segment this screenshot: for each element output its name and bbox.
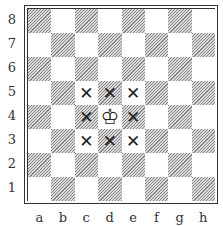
square-a5 (28, 81, 51, 105)
square-c4: ✕ (75, 105, 98, 129)
square-f3 (145, 129, 168, 153)
square-a1 (28, 177, 51, 201)
square-h7 (192, 33, 215, 57)
square-a7 (28, 33, 51, 57)
cross-mark-icon: ✕ (103, 85, 117, 102)
square-g8 (168, 9, 191, 33)
square-h2 (192, 153, 215, 177)
rank-label: 8 (6, 12, 18, 27)
square-b3 (51, 129, 74, 153)
cross-mark-icon: ✕ (79, 85, 93, 102)
square-b6 (51, 57, 74, 81)
square-d2 (98, 153, 121, 177)
file-label: c (75, 210, 98, 225)
rank-label: 4 (6, 108, 18, 123)
cross-mark-icon: ✕ (126, 133, 140, 150)
square-h6 (192, 57, 215, 81)
square-b5 (51, 81, 74, 105)
square-d7 (98, 33, 121, 57)
square-f2 (145, 153, 168, 177)
file-label: e (122, 210, 145, 225)
square-e3: ✕ (122, 129, 145, 153)
square-c2 (75, 153, 98, 177)
square-e6 (122, 57, 145, 81)
square-g5 (168, 81, 191, 105)
cross-mark-icon: ✕ (79, 133, 93, 150)
square-c5: ✕ (75, 81, 98, 105)
rank-label: 7 (6, 36, 18, 51)
square-g6 (168, 57, 191, 81)
square-c1 (75, 177, 98, 201)
square-f1 (145, 177, 168, 201)
square-b2 (51, 153, 74, 177)
square-f5 (145, 81, 168, 105)
square-f6 (145, 57, 168, 81)
square-h4 (192, 105, 215, 129)
file-label: a (28, 210, 51, 225)
square-e8 (122, 9, 145, 33)
file-label: d (98, 210, 121, 225)
cross-mark-icon: ✕ (126, 85, 140, 102)
square-g4 (168, 105, 191, 129)
chess-board: ✕✕✕✕♔✕✕✕✕ (28, 9, 215, 201)
square-f7 (145, 33, 168, 57)
file-label: h (192, 210, 215, 225)
square-d8 (98, 9, 121, 33)
square-g1 (168, 177, 191, 201)
rank-label: 2 (6, 156, 18, 171)
square-a4 (28, 105, 51, 129)
file-label: f (145, 210, 168, 225)
square-d1 (98, 177, 121, 201)
square-c3: ✕ (75, 129, 98, 153)
square-g3 (168, 129, 191, 153)
square-f4 (145, 105, 168, 129)
file-label: b (51, 210, 74, 225)
square-e2 (122, 153, 145, 177)
square-d3: ✕ (98, 129, 121, 153)
square-c8 (75, 9, 98, 33)
square-a3 (28, 129, 51, 153)
square-d5: ✕ (98, 81, 121, 105)
square-d6 (98, 57, 121, 81)
square-a2 (28, 153, 51, 177)
square-h1 (192, 177, 215, 201)
rank-label: 6 (6, 60, 18, 75)
square-h3 (192, 129, 215, 153)
white-king-icon: ♔ (100, 107, 119, 128)
square-f8 (145, 9, 168, 33)
square-e1 (122, 177, 145, 201)
square-h8 (192, 9, 215, 33)
square-b8 (51, 9, 74, 33)
square-g2 (168, 153, 191, 177)
cross-mark-icon: ✕ (79, 109, 93, 126)
square-c7 (75, 33, 98, 57)
rank-label: 5 (6, 84, 18, 99)
square-h5 (192, 81, 215, 105)
rank-label: 1 (6, 180, 18, 195)
square-e4: ✕ (122, 105, 145, 129)
file-label: g (168, 210, 191, 225)
cross-mark-icon: ✕ (103, 133, 117, 150)
square-g7 (168, 33, 191, 57)
square-b7 (51, 33, 74, 57)
cross-mark-icon: ✕ (126, 109, 140, 126)
square-a6 (28, 57, 51, 81)
square-b4 (51, 105, 74, 129)
square-c6 (75, 57, 98, 81)
square-e7 (122, 33, 145, 57)
square-b1 (51, 177, 74, 201)
square-e5: ✕ (122, 81, 145, 105)
square-a8 (28, 9, 51, 33)
rank-label: 3 (6, 132, 18, 147)
square-d4: ♔ (98, 105, 121, 129)
